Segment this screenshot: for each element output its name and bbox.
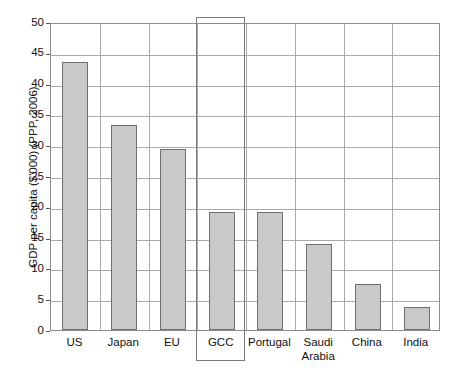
gridline-vertical	[197, 24, 198, 330]
y-tick-label: 0	[20, 324, 44, 336]
x-axis-label: US	[50, 336, 99, 350]
gridline-horizontal	[51, 178, 439, 179]
y-tick-label: 15	[20, 231, 44, 243]
x-axis-label: Japan	[99, 336, 148, 350]
bar	[209, 212, 235, 330]
y-tick-label: 30	[20, 139, 44, 151]
y-tick-mark	[46, 331, 50, 332]
y-tick-label: 45	[20, 46, 44, 58]
gridline-horizontal	[51, 86, 439, 87]
y-tick-label: 5	[20, 293, 44, 305]
bar	[160, 149, 186, 330]
y-tick-label: 35	[20, 108, 44, 120]
gridline-vertical	[392, 24, 393, 330]
x-axis-label: China	[343, 336, 392, 350]
y-tick-label: 10	[20, 262, 44, 274]
plot-area	[50, 23, 440, 331]
gridline-vertical	[344, 24, 345, 330]
y-tick-label: 50	[20, 16, 44, 28]
bar	[404, 307, 430, 330]
gridline-vertical	[246, 24, 247, 330]
bar	[306, 244, 332, 330]
y-tick-label: 40	[20, 77, 44, 89]
gridline-vertical	[149, 24, 150, 330]
bar	[62, 62, 88, 330]
x-axis-label: India	[391, 336, 440, 350]
gridline-horizontal	[51, 147, 439, 148]
bar-chart: GDP per capita ($'000) (PPP, 2006) 05101…	[0, 0, 461, 382]
x-axis-label: Saudi Arabia	[294, 336, 343, 363]
gridline-vertical	[100, 24, 101, 330]
gridline-vertical	[295, 24, 296, 330]
gridline-horizontal	[51, 55, 439, 56]
gridline-horizontal	[51, 240, 439, 241]
bar	[355, 284, 381, 330]
gridline-horizontal	[51, 270, 439, 271]
y-tick-label: 25	[20, 170, 44, 182]
bar	[111, 125, 137, 330]
x-axis-label: GCC	[196, 336, 245, 350]
bar	[257, 212, 283, 330]
gridline-horizontal	[51, 209, 439, 210]
y-tick-label: 20	[20, 200, 44, 212]
x-axis-label: Portugal	[245, 336, 294, 350]
gridline-horizontal	[51, 116, 439, 117]
x-axis-label: EU	[148, 336, 197, 350]
